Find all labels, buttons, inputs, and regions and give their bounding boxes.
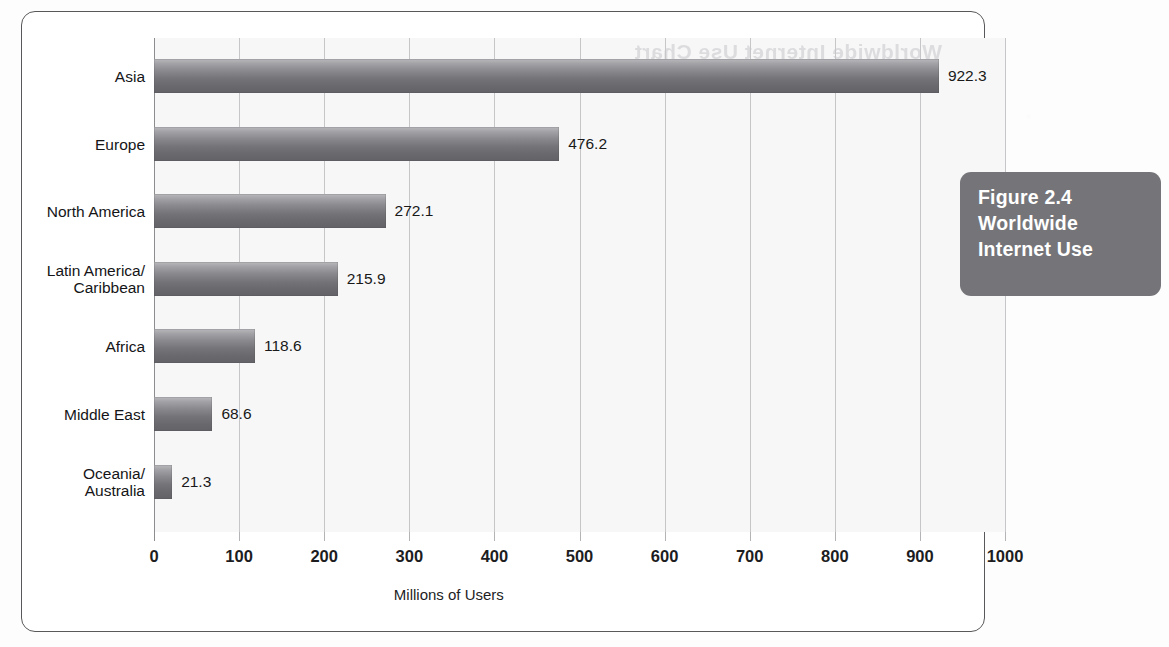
caption-line-1: Figure 2.4	[978, 184, 1161, 210]
category-label: North America	[19, 203, 145, 220]
category-label: Oceania/ Australia	[19, 465, 145, 499]
bar[interactable]	[154, 127, 559, 161]
x-tick-label-800: 800	[821, 547, 849, 566]
bar-row: Oceania/ Australia21.3	[22, 465, 986, 499]
x-tick-label-500: 500	[566, 547, 594, 566]
figure-frame: Worldwide Internet Use Chart 01002003004…	[21, 11, 985, 632]
tick-mark-200	[324, 532, 325, 541]
tick-mark-400	[494, 532, 495, 541]
bar-row: Latin America/ Caribbean215.9	[22, 262, 986, 296]
bar[interactable]	[154, 465, 172, 499]
bar-row: Middle East68.6	[22, 397, 986, 431]
bar[interactable]	[154, 397, 212, 431]
caption-line-2: Worldwide	[978, 210, 1161, 236]
bar-value-label: 21.3	[181, 473, 211, 491]
category-label: Africa	[19, 338, 145, 355]
bar-row: Europe476.2	[22, 127, 986, 161]
bar-value-label: 68.6	[221, 405, 251, 423]
x-tick-label-1000: 1000	[987, 547, 1024, 566]
category-label: Latin America/ Caribbean	[19, 262, 145, 296]
x-tick-label-300: 300	[396, 547, 424, 566]
tick-mark-700	[750, 532, 751, 541]
caption-line-3: Internet Use	[978, 236, 1161, 262]
category-label: Europe	[19, 135, 145, 152]
tick-mark-1000	[1005, 532, 1006, 541]
tick-mark-300	[409, 532, 410, 541]
bar[interactable]	[154, 262, 338, 296]
bar-row: Asia922.3	[22, 59, 986, 93]
bar[interactable]	[154, 194, 386, 228]
bar-value-label: 272.1	[395, 202, 434, 220]
bar-value-label: 215.9	[347, 270, 386, 288]
bar-value-label: 922.3	[948, 67, 987, 85]
tick-mark-100	[239, 532, 240, 541]
bar[interactable]	[154, 59, 939, 93]
x-tick-label-700: 700	[736, 547, 764, 566]
bar-row: North America272.1	[22, 194, 986, 228]
x-axis-title: Millions of Users	[394, 586, 504, 603]
x-tick-label-600: 600	[651, 547, 679, 566]
x-tick-label-200: 200	[310, 547, 338, 566]
tick-mark-900	[920, 532, 921, 541]
category-label: Asia	[19, 68, 145, 85]
category-label: Middle East	[19, 406, 145, 423]
x-tick-label-900: 900	[906, 547, 934, 566]
x-tick-label-100: 100	[225, 547, 253, 566]
tick-mark-600	[665, 532, 666, 541]
bar-row: Africa118.6	[22, 329, 986, 363]
tick-mark-800	[835, 532, 836, 541]
figure-caption-box: Figure 2.4 Worldwide Internet Use	[960, 172, 1161, 296]
bar[interactable]	[154, 329, 255, 363]
bar-value-label: 476.2	[568, 135, 607, 153]
tick-mark-500	[580, 532, 581, 541]
bar-chart: Worldwide Internet Use Chart 01002003004…	[22, 12, 986, 633]
x-tick-label-0: 0	[149, 547, 158, 566]
tick-mark-0	[154, 532, 155, 541]
x-tick-label-400: 400	[481, 547, 509, 566]
bar-value-label: 118.6	[264, 337, 302, 355]
